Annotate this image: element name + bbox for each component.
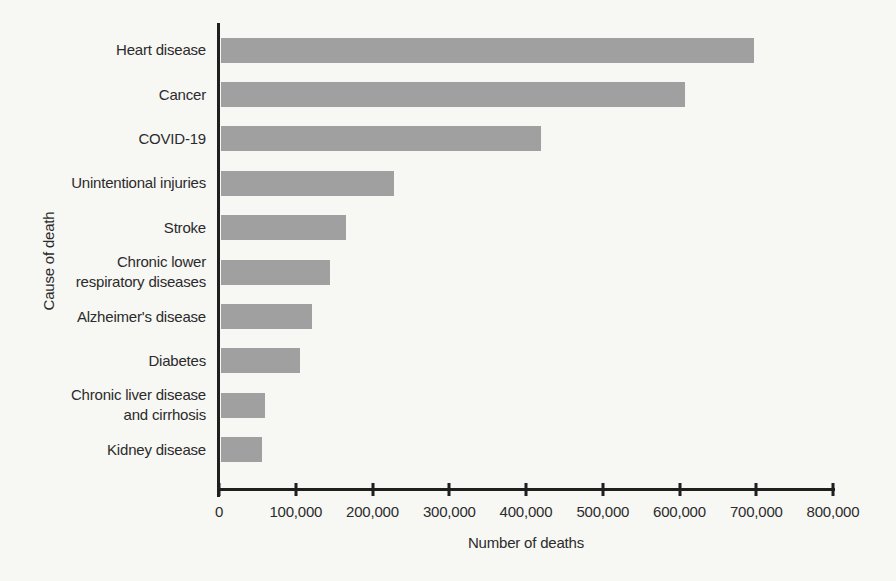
- bar-unintentional-injuries: [221, 171, 394, 196]
- x-axis-tick-mark: [678, 483, 681, 496]
- category-label-line: respiratory diseases: [0, 272, 206, 292]
- category-label-line: Chronic lower: [0, 252, 206, 272]
- bar-diabetes: [221, 348, 300, 373]
- category-label-line: Cancer: [0, 85, 206, 105]
- category-label-line: and cirrhosis: [0, 405, 206, 425]
- bar-rows: Heart diseaseCancerCOVID-19Unintentional…: [0, 28, 896, 472]
- bar-heart-disease: [221, 38, 754, 63]
- x-axis-tick-mark: [525, 483, 528, 496]
- chart-row: Cancer: [0, 72, 896, 116]
- bar-alzheimer-s-disease: [221, 304, 312, 329]
- chart-row: Chronic liver diseaseand cirrhosis: [0, 383, 896, 427]
- x-axis-tick-label: 700,000: [730, 503, 783, 520]
- category-label-line: COVID-19: [0, 129, 206, 149]
- category-label: Alzheimer's disease: [0, 307, 219, 327]
- category-label-line: Alzheimer's disease: [0, 307, 206, 327]
- bar-chart-figure: Cause of death Heart diseaseCancerCOVID-…: [0, 0, 896, 581]
- category-label: Kidney disease: [0, 440, 219, 460]
- category-label: Unintentional injuries: [0, 173, 219, 193]
- category-label: Chronic lowerrespiratory diseases: [0, 252, 219, 292]
- category-label: Stroke: [0, 218, 219, 238]
- x-axis-tick-label: 0: [215, 503, 223, 520]
- category-label-line: Heart disease: [0, 40, 206, 60]
- y-axis-line: [217, 23, 220, 497]
- chart-row: Stroke: [0, 206, 896, 250]
- x-axis-tick-label: 500,000: [576, 503, 629, 520]
- x-axis-tick-label: 400,000: [500, 503, 553, 520]
- category-label: Chronic liver diseaseand cirrhosis: [0, 385, 219, 425]
- x-axis-tick-mark: [371, 483, 374, 496]
- x-axis-tick-mark: [832, 483, 835, 496]
- category-label: Heart disease: [0, 40, 219, 60]
- x-axis-tick-label: 100,000: [269, 503, 322, 520]
- x-axis-tick-mark: [755, 483, 758, 496]
- category-label-line: Diabetes: [0, 351, 206, 371]
- category-label-line: Stroke: [0, 218, 206, 238]
- chart-row: Alzheimer's disease: [0, 294, 896, 338]
- x-axis-tick-label: 600,000: [653, 503, 706, 520]
- category-label: COVID-19: [0, 129, 219, 149]
- category-label-line: Unintentional injuries: [0, 173, 206, 193]
- category-label: Diabetes: [0, 351, 219, 371]
- chart-row: Unintentional injuries: [0, 161, 896, 205]
- bar-stroke: [221, 215, 346, 240]
- x-axis-tick-mark: [601, 483, 604, 496]
- x-axis-tick-label: 300,000: [423, 503, 476, 520]
- x-axis-tick-label: 800,000: [807, 503, 860, 520]
- x-axis-tick-mark: [448, 483, 451, 496]
- category-label-line: Kidney disease: [0, 440, 206, 460]
- chart-row: Heart disease: [0, 28, 896, 72]
- chart-row: Kidney disease: [0, 428, 896, 472]
- bar-cancer: [221, 82, 685, 107]
- x-axis-tick-mark: [294, 483, 297, 496]
- bar-kidney-disease: [221, 437, 262, 462]
- bar-chronic-lower-respiratory-diseases: [221, 260, 330, 285]
- x-axis-title: Number of deaths: [219, 534, 833, 551]
- chart-row: Chronic lowerrespiratory diseases: [0, 250, 896, 294]
- category-label: Cancer: [0, 85, 219, 105]
- category-label-line: Chronic liver disease: [0, 385, 206, 405]
- chart-row: COVID-19: [0, 117, 896, 161]
- x-axis-tick-mark: [218, 483, 221, 496]
- chart-row: Diabetes: [0, 339, 896, 383]
- bar-covid-19: [221, 126, 541, 151]
- bar-chronic-liver-disease-and-cirrhosis: [221, 393, 265, 418]
- x-axis-tick-label: 200,000: [346, 503, 399, 520]
